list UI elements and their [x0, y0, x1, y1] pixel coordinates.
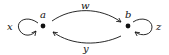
node-label-b: b [125, 9, 131, 20]
node-a [41, 24, 46, 29]
node-b [126, 24, 131, 29]
node-label-a: a [40, 9, 46, 20]
edge-label-z: z [155, 21, 162, 32]
edge-z-self-loop [133, 19, 152, 35]
edge-label-w: w [81, 0, 90, 11]
edge-label-y: y [82, 43, 89, 54]
edge-x-self-loop [18, 19, 38, 35]
edge-w-a-to-b [52, 11, 121, 22]
graph-diagram: x w y z a b [0, 0, 169, 55]
edge-label-x: x [7, 21, 13, 32]
edge-y-b-to-a [53, 32, 121, 43]
